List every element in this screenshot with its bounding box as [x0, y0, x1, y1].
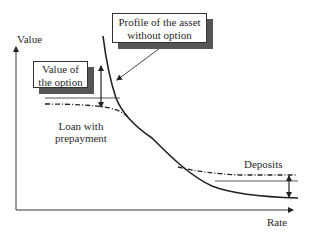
option-callout-line1: Value of [34, 63, 87, 76]
profile-callout-line2: without option [113, 29, 206, 42]
y-axis-label: Value [17, 33, 42, 45]
x-axis-label: Rate [267, 216, 287, 228]
loan-label-line2: prepayment [55, 132, 107, 144]
profile-callout-pointer [117, 48, 160, 80]
profile-callout-line1: Profile of the asset [113, 16, 206, 29]
option-value-callout: Value of the option [33, 61, 88, 88]
deposits-label: Deposits [244, 158, 283, 170]
loan-label-line1: Loan with [55, 120, 107, 132]
profile-callout: Profile of the asset without option [112, 13, 207, 43]
asset-profile-curve [103, 36, 298, 198]
option-callout-line2: the option [34, 76, 87, 89]
loan-prepayment-curve [45, 104, 128, 117]
loan-label: Loan with prepayment [55, 120, 107, 144]
